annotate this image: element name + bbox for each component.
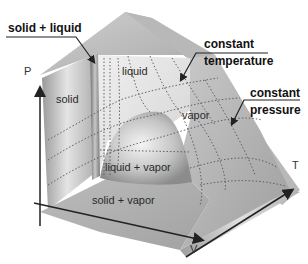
pvt-surface-diagram — [0, 0, 308, 264]
region-label-solid-vapor: solid + vapor — [92, 195, 155, 206]
region-label-liquid: liquid — [122, 66, 148, 77]
region-label-liquid-vapor: liquid + vapor — [105, 162, 171, 173]
callout-solid-liquid: solid + liquid — [8, 22, 82, 34]
region-label-solid: solid — [56, 94, 79, 105]
callout-constant-temperature-line2: temperature — [204, 55, 273, 67]
surface-solid — [42, 56, 92, 210]
axis-label-v: V — [190, 244, 197, 255]
callout-constant-temperature-line1: constant — [204, 38, 254, 50]
axis-label-p: P — [24, 66, 31, 77]
callout-constant-pressure-line2: pressure — [250, 104, 301, 116]
region-label-vapor: vapor — [182, 110, 210, 121]
axis-label-t: T — [292, 160, 299, 171]
callout-constant-pressure-line1: constant — [250, 87, 300, 99]
